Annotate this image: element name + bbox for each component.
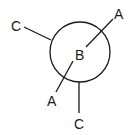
front-bond-lower-left <box>56 61 73 92</box>
back-bond-upper-left <box>24 27 51 40</box>
label-front-atom: B <box>75 47 84 63</box>
label-back-bottom: C <box>74 116 84 132</box>
newman-projection: C A B A C <box>0 0 132 135</box>
label-front-upper-right: A <box>114 6 124 22</box>
label-back-upper-left: C <box>11 18 21 34</box>
label-front-lower-left: A <box>47 93 57 109</box>
